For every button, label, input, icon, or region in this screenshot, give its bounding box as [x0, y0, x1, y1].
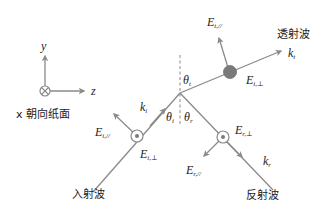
reflected-wave: θr Er,⊥ Er,// kr 反射波 [180, 93, 279, 202]
reflected-wave-label: 反射波 [246, 188, 279, 202]
reflected-angle-label: θr [184, 110, 193, 125]
reflected-E-parallel-label: Er,// [185, 163, 202, 178]
transmitted-angle-label: θt [183, 73, 192, 88]
z-axis-label: z [90, 84, 96, 98]
incident-wave: ki θi Ei,// Ei,⊥ 入射波 [72, 93, 180, 201]
transmitted-wave: θt Et,// Ei,⊥ kt 透射波 [180, 15, 310, 93]
coordinate-axes: y z x 朝向纸面 [16, 39, 96, 121]
incident-E-parallel-label: Ei,// [94, 125, 111, 140]
transmitted-E-perp-label: Ei,⊥ [245, 73, 264, 88]
incident-k-arrow [150, 109, 165, 126]
incident-angle-label: θi [166, 110, 174, 125]
x-into-page-icon [40, 86, 50, 96]
x-direction-note: x 朝向纸面 [16, 107, 70, 121]
incident-E-perp-out-of-page-icon [131, 130, 143, 142]
reflected-k-arrow [226, 141, 242, 157]
transmitted-E-parallel-label: Et,// [206, 15, 223, 30]
reflected-E-perp-label: Er,⊥ [234, 123, 253, 138]
incident-E-perp-label: Ei,⊥ [139, 147, 158, 162]
incident-k-label: ki [140, 100, 147, 115]
transmitted-wave-label: 透射波 [277, 27, 310, 41]
reflected-k-label: kr [263, 154, 271, 169]
y-axis-label: y [40, 39, 47, 53]
transmitted-E-perp-filled-dot [224, 66, 237, 79]
reflected-E-perp-out-of-page-icon [217, 131, 229, 143]
incident-wave-label: 入射波 [72, 187, 105, 201]
wave-incidence-diagram: y z x 朝向纸面 ki θi Ei,// Ei,⊥ 入射波 θt Et,//… [0, 0, 330, 216]
transmitted-k-label: kt [288, 46, 296, 61]
